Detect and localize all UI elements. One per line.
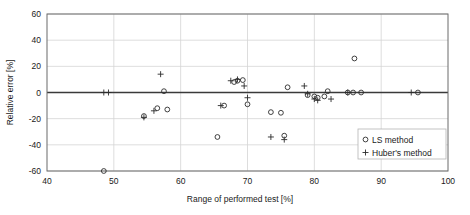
x-tick-label: 70 (243, 176, 253, 186)
x-tick-label: 100 (441, 176, 455, 186)
y-tick-label: 40 (32, 35, 42, 45)
legend-item-hubers-method: Huber's method (363, 148, 433, 158)
y-axis-tick-labels: 60 40 20 0 -20 -40 -60 (29, 9, 42, 176)
x-tick-label: 40 (42, 176, 52, 186)
y-axis-title: Relative error [%] (5, 60, 15, 126)
y-tick-label: -60 (29, 166, 42, 176)
x-tick-label: 50 (109, 176, 119, 186)
x-axis-title: Range of performed test [%] (187, 194, 293, 204)
scatter-chart: 60 40 20 0 -20 -40 -60 40 50 60 70 80 90… (0, 0, 470, 215)
y-tick-label: 20 (32, 61, 42, 71)
chart-canvas: 60 40 20 0 -20 -40 -60 40 50 60 70 80 90… (0, 0, 470, 215)
legend-label: LS method (372, 135, 413, 145)
chart-legend: LS method Huber's method (358, 129, 446, 159)
x-tick-label: 90 (376, 176, 386, 186)
x-tick-label: 60 (176, 176, 186, 186)
y-tick-label: 60 (32, 9, 42, 19)
x-tick-label: 80 (310, 176, 320, 186)
legend-label: Huber's method (372, 148, 432, 158)
y-tick-label: -20 (29, 114, 42, 124)
y-tick-label: -40 (29, 140, 42, 150)
y-tick-label: 0 (36, 88, 41, 98)
x-axis-tick-labels: 40 50 60 70 80 90 100 (42, 176, 455, 186)
